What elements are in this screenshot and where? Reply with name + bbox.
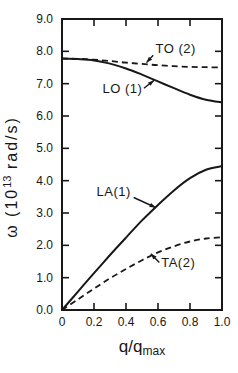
y-tick-label: 9.0 [36, 12, 53, 26]
curve-LA1 [62, 166, 222, 310]
y-axis-label-prefix: ω (10 [3, 188, 20, 238]
plot-border [62, 19, 222, 310]
label-LO1: LO (1) [102, 81, 142, 96]
y-axis-label-suffix: rad/s) [3, 116, 20, 175]
label-TA2: TA(2) [161, 255, 195, 270]
dispersion-chart: 00.20.40.60.81.00.01.02.03.04.05.06.07.0… [0, 0, 238, 373]
y-tick-label: 1.0 [36, 271, 53, 285]
arrowhead-LA1 [149, 203, 155, 208]
x-axis-label: q/qmax [119, 337, 165, 358]
y-tick-label: 2.0 [36, 238, 53, 252]
x-tick-label: 0.8 [182, 315, 199, 329]
y-tick-label: 0.0 [36, 303, 53, 317]
curve-TA2 [62, 237, 222, 310]
y-axis-label: ω (1013 rad/s) [1, 116, 20, 238]
y-axis-label-exponent: 13 [1, 176, 13, 188]
label-LA1: LA(1) [97, 184, 131, 199]
y-tick-label: 4.0 [36, 174, 53, 188]
y-tick-label: 8.0 [36, 44, 53, 58]
axis-ticks [62, 19, 222, 310]
x-tick-label: 0 [59, 315, 66, 329]
x-axis-label-main: q/q [119, 337, 143, 356]
x-axis-label-subscript: max [142, 344, 165, 358]
x-tick-label: 0.4 [118, 315, 135, 329]
x-tick-label: 0.6 [150, 315, 167, 329]
x-tick-label: 0.2 [86, 315, 103, 329]
plot-frame [62, 19, 222, 310]
x-tick-label: 1.0 [214, 315, 231, 329]
y-tick-label: 6.0 [36, 109, 53, 123]
y-tick-label: 7.0 [36, 77, 53, 91]
y-tick-label: 3.0 [36, 206, 53, 220]
label-TO2: TO (2) [156, 41, 196, 56]
y-tick-label: 5.0 [36, 141, 53, 155]
phonon-dispersion-figure: 00.20.40.60.81.00.01.02.03.04.05.06.07.0… [0, 0, 238, 373]
